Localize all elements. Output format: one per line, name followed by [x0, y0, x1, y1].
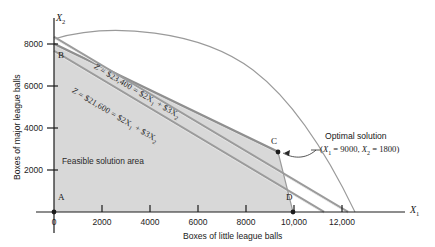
feasible-region [54, 44, 293, 212]
x-tick-0: 0 [40, 217, 68, 227]
lp-graph-figure: X2 X1 2000 4000 6000 8000 0 2000 4000 60… [0, 0, 435, 247]
x-tick-12000: 12,000 [323, 217, 361, 227]
y-axis-title: Boxes of major league balls [12, 74, 22, 180]
x-tick-2000: 2000 [85, 217, 119, 227]
x-tick-8000: 8000 [229, 217, 263, 227]
vertex-label-a: A [58, 192, 65, 202]
x-tick-6000: 6000 [181, 217, 215, 227]
vertex-dot-c [276, 150, 281, 155]
graph-canvas [0, 0, 435, 247]
vertex-label-d: D [286, 192, 293, 202]
x-tick-4000: 4000 [133, 217, 167, 227]
y-tick-8000: 8000 [10, 39, 43, 49]
x-axis-title: Boxes of little league balls [183, 231, 282, 241]
optimal-solution-title: Optimal solution [325, 131, 387, 141]
optimal-solution-coords: (X1 = 9000, X2 = 1800) [320, 144, 399, 156]
x-tick-10000: 10,000 [275, 217, 313, 227]
x-axis-variable: X1 [410, 204, 419, 217]
vertex-label-b: B [58, 50, 64, 60]
vertex-label-c: C [271, 136, 277, 146]
y-axis-variable: X2 [56, 12, 65, 25]
feasible-region-caption: Feasible solution area [62, 156, 144, 166]
vertex-dot-d [291, 210, 296, 215]
vertex-dot-a [52, 210, 57, 215]
